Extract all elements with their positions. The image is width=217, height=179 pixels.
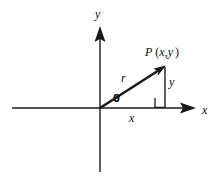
x-axis-label: x	[202, 104, 207, 116]
radius-vector-arrowhead-icon	[154, 66, 167, 77]
point-label-name: P	[145, 45, 152, 59]
radius-label: r	[121, 72, 126, 84]
radius-vector-line	[100, 70, 160, 109]
opposite-leg-label: y	[169, 76, 174, 88]
right-angle-marker-icon	[155, 98, 165, 107]
diagram-canvas	[0, 0, 217, 179]
y-axis-label: y	[95, 8, 100, 20]
point-label: P(x,y)	[145, 46, 179, 58]
angle-theta-label: θ	[113, 94, 120, 104]
polar-coordinate-diagram: y x P(x,y) r θ y x	[0, 0, 217, 179]
adjacent-leg-label: x	[129, 112, 134, 124]
point-label-close-paren: )	[175, 45, 179, 59]
point-label-y: y	[168, 45, 173, 59]
